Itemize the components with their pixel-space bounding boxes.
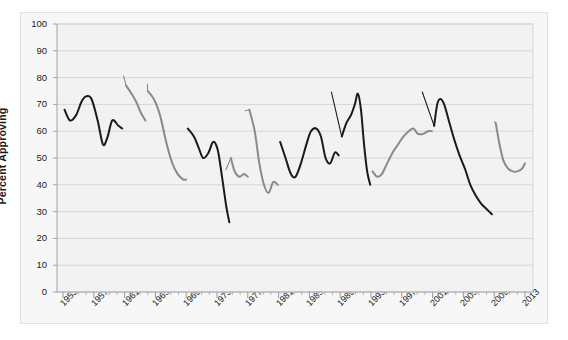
approval-chart: Percent Approving 1009080706050403020100… [0,0,568,340]
plot-area [0,0,568,340]
